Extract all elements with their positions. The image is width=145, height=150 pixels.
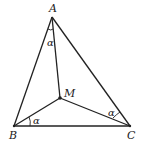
- angle-arc-b: [29, 117, 30, 126]
- angle-label-b: α: [33, 115, 40, 126]
- segment-ab: [14, 17, 52, 126]
- angle-label-c: α: [108, 107, 115, 118]
- angle-label-a: α: [47, 37, 54, 48]
- geometry-diagram: A B C M α α α: [0, 0, 145, 150]
- triangle-figure: A B C M α α α: [0, 0, 145, 150]
- label-b: B: [8, 129, 17, 142]
- segment-ma: [52, 17, 60, 98]
- label-m: M: [63, 87, 76, 100]
- label-a: A: [48, 2, 57, 15]
- label-c: C: [127, 129, 136, 142]
- point-b-dot: [13, 125, 15, 127]
- point-m-dot: [58, 96, 62, 100]
- point-c-dot: [129, 125, 131, 127]
- angle-arc-a: [48, 29, 53, 30]
- segment-ca: [52, 17, 130, 126]
